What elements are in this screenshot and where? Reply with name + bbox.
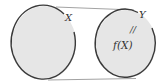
function-mapping-diagram: X Y // f(X) [0, 0, 163, 84]
lower-connector-line [48, 79, 136, 81]
set-y-label: Y [139, 9, 147, 20]
set-x-label: X [64, 12, 73, 23]
set-y: Y // f(X) [95, 9, 156, 78]
set-x: X [11, 5, 76, 80]
pointer-mark: // [129, 25, 137, 35]
image-label: f(X) [112, 39, 133, 51]
